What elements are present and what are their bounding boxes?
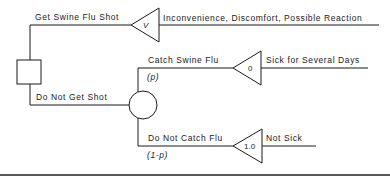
no-catch-probability: (1-p)	[147, 150, 168, 160]
decision-node-square	[17, 60, 41, 84]
no-catch-terminal-value: 1.0	[244, 142, 256, 151]
shot-outcome-label: Inconvenience, Discomfort, Possible Reac…	[163, 13, 362, 23]
no-catch-branch-label: Do Not Catch Flu	[148, 133, 223, 143]
no-shot-branch-label: Do Not Get Shot	[36, 92, 107, 102]
catch-outcome-label: Sick for Several Days	[266, 55, 360, 65]
catch-terminal-value: 0	[248, 64, 253, 73]
shot-terminal-value: V	[143, 21, 149, 30]
chance-node-circle	[129, 91, 157, 119]
no-catch-outcome-label: Not Sick	[266, 133, 303, 143]
shot-branch-label: Get Swine Flu Shot	[35, 12, 119, 22]
catch-branch-label: Catch Swine Flu	[148, 55, 219, 65]
decision-tree-diagram: Get Swine Flu Shot V Inconvenience, Disc…	[0, 0, 390, 180]
catch-probability: (p)	[147, 72, 159, 82]
catch-terminal-triangle	[233, 51, 261, 85]
